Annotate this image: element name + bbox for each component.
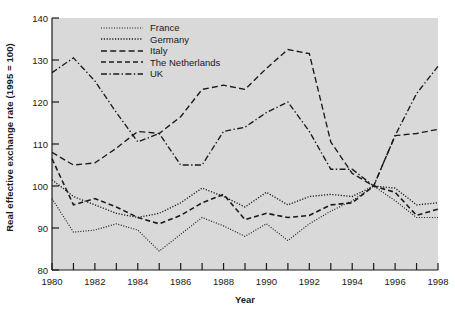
legend-swatch-italy <box>100 46 144 56</box>
x-tick-label: 1988 <box>213 276 234 287</box>
plot-area <box>0 0 455 316</box>
legend-swatch-france <box>100 23 144 33</box>
x-tick-label: 1984 <box>127 276 148 287</box>
x-tick-label: 1996 <box>385 276 406 287</box>
legend-item-uk: UK <box>100 68 220 80</box>
x-tick-label: 1982 <box>84 276 105 287</box>
legend-item-germany: Germany <box>100 34 220 46</box>
x-tick-label: 1998 <box>427 276 448 287</box>
x-axis-title: Year <box>52 294 438 305</box>
x-tick-label: 1990 <box>256 276 277 287</box>
legend-item-france: France <box>100 22 220 34</box>
legend-label: France <box>150 22 180 34</box>
legend-swatch-the-netherlands <box>100 57 144 67</box>
chart-legend: FranceGermanyItalyThe NetherlandsUK <box>100 22 220 80</box>
x-tick-label: 1980 <box>41 276 62 287</box>
legend-item-the-netherlands: The Netherlands <box>100 57 220 69</box>
legend-swatch-germany <box>100 34 144 44</box>
legend-label: Germany <box>150 34 189 46</box>
legend-label: UK <box>150 68 163 80</box>
legend-label: The Netherlands <box>150 57 220 69</box>
x-tick-label: 1994 <box>342 276 363 287</box>
legend-label: Italy <box>150 45 167 57</box>
chart-container: Real effective exchange rate (1995 = 100… <box>0 0 455 316</box>
x-axis-title-text: Year <box>235 294 255 305</box>
legend-item-italy: Italy <box>100 45 220 57</box>
x-tick-label: 1992 <box>299 276 320 287</box>
legend-swatch-uk <box>100 69 144 79</box>
x-tick-label: 1986 <box>170 276 191 287</box>
